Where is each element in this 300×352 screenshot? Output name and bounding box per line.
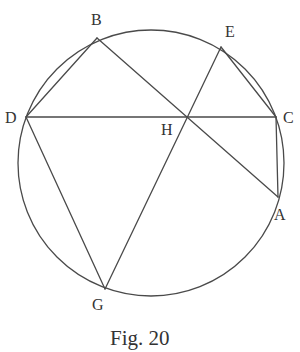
point-label-a: A xyxy=(274,206,286,223)
figure-caption: Fig. 20 xyxy=(110,326,170,350)
segments-group xyxy=(26,38,278,289)
point-label-b: B xyxy=(91,11,102,28)
segment-eg xyxy=(105,47,221,289)
point-label-e: E xyxy=(225,23,235,40)
circumscribed-circle xyxy=(18,30,284,296)
point-label-h: H xyxy=(161,121,173,138)
segment-dg xyxy=(26,117,105,289)
segment-ec xyxy=(221,47,276,117)
geometry-figure: ABCDEGH Fig. 20 xyxy=(0,0,300,352)
point-label-g: G xyxy=(92,296,104,313)
point-labels-group: ABCDEGH xyxy=(5,11,294,313)
point-label-c: C xyxy=(283,109,294,126)
segment-db xyxy=(26,38,97,117)
segment-ca xyxy=(276,117,278,197)
point-label-d: D xyxy=(5,109,17,126)
